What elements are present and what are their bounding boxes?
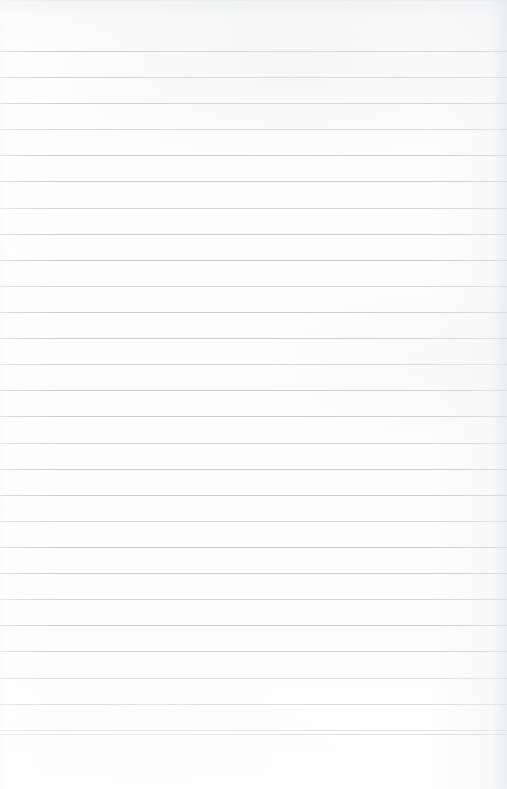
paper-background <box>0 0 507 789</box>
paper-page <box>0 0 507 789</box>
